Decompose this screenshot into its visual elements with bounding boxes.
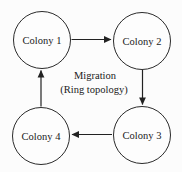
caption-migration: Migration bbox=[74, 70, 117, 81]
colony-3-label: Colony 3 bbox=[123, 130, 162, 141]
colony-1-label: Colony 1 bbox=[23, 35, 62, 46]
ring-topology-diagram: Colony 1 Colony 2 Colony 3 Colony 4 Migr… bbox=[0, 0, 182, 172]
caption-ring-topology: (Ring topology) bbox=[60, 84, 128, 96]
colony-2-label: Colony 2 bbox=[123, 36, 162, 47]
colony-4-label: Colony 4 bbox=[22, 131, 62, 142]
diagram-canvas: Colony 1 Colony 2 Colony 3 Colony 4 Migr… bbox=[0, 0, 182, 172]
